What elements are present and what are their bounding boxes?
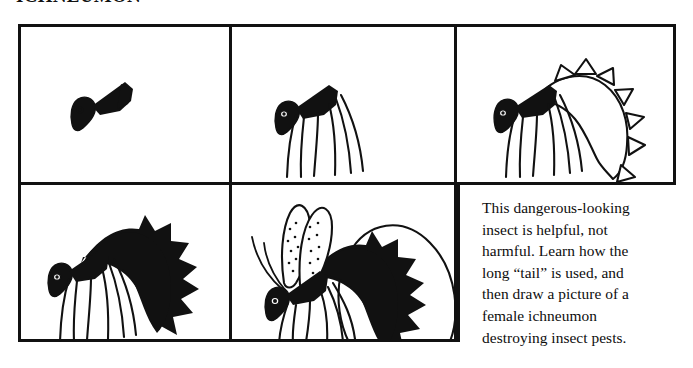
panel-step-5 bbox=[232, 185, 457, 342]
drawing-step-4 bbox=[21, 185, 235, 342]
caption-line: harmful. Learn how the bbox=[482, 240, 678, 262]
page-root: ICHNEUMON bbox=[0, 0, 693, 368]
thorax-group bbox=[92, 82, 133, 115]
panel-caption: This dangerous-looking insect is helpful… bbox=[457, 185, 676, 342]
drawing-step-3 bbox=[457, 27, 676, 188]
caption-line: female ichneumon bbox=[482, 305, 678, 327]
panel-step-1 bbox=[18, 24, 232, 185]
page-title: ICHNEUMON bbox=[16, 0, 141, 3]
caption-line: This dangerous-looking bbox=[482, 197, 678, 219]
panel-step-4 bbox=[18, 185, 232, 342]
antennae-group bbox=[252, 237, 286, 291]
caption-line: then draw a picture of a bbox=[482, 283, 678, 305]
drawing-step-2 bbox=[232, 27, 457, 188]
panel-grid: This dangerous-looking insect is helpful… bbox=[18, 24, 676, 342]
head-group bbox=[265, 287, 289, 320]
caption-line: destroying insect pests. bbox=[482, 327, 678, 349]
drawing-step-1 bbox=[21, 27, 235, 188]
panel-step-2 bbox=[232, 24, 457, 185]
panel-step-3 bbox=[457, 24, 676, 185]
caption-line: long “tail” is used, and bbox=[482, 262, 678, 284]
caption-text: This dangerous-looking insect is helpful… bbox=[482, 197, 678, 348]
caption-line: insect is helpful, not bbox=[482, 219, 678, 241]
head-group bbox=[71, 97, 95, 130]
drawing-step-5 bbox=[232, 185, 457, 342]
